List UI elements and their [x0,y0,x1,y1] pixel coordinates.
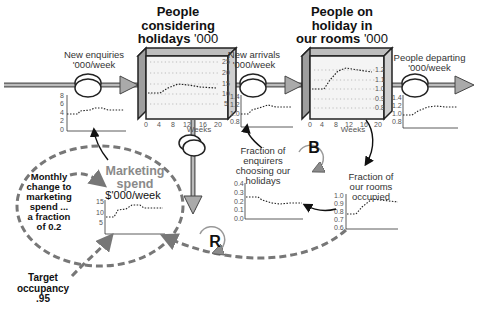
svg-text:5: 5 [224,100,228,107]
svg-text:1.0: 1.0 [375,85,385,92]
svg-text:20: 20 [222,69,230,76]
svg-text:0: 0 [308,121,312,128]
svg-text:6: 6 [60,100,64,107]
flow-label-new-enquiries: New enquiries '000/week [54,50,134,70]
chart-people-departing: 1.41.21.00.8 [392,94,458,128]
svg-text:10: 10 [222,90,230,97]
svg-text:0.8: 0.8 [230,118,240,125]
svg-text:0.8: 0.8 [375,104,385,111]
chart-fraction-enquirers: 0.40.30.20.10.0 [234,180,303,222]
svg-text:1.2: 1.2 [392,102,402,109]
flow-label-new-arrivals: New arrivals '000/week [216,50,292,70]
svg-text:0.8: 0.8 [392,118,402,125]
svg-text:0.0: 0.0 [234,215,244,222]
svg-text:1.0: 1.0 [392,110,402,117]
aux-unit-marketing-spend: $'000/week [92,190,174,202]
svg-text:4: 4 [320,121,324,128]
svg-text:4: 4 [60,109,64,116]
chart-marketing-spend: 15105 [96,198,165,234]
flow-label-people-departing: People departing '000/week [382,53,477,73]
svg-text:0.9: 0.9 [375,95,385,102]
svg-text:0.7: 0.7 [334,216,344,223]
chart-new-enquiries: 86420 [60,92,126,133]
svg-text:0.2: 0.2 [234,198,244,205]
svg-text:5: 5 [99,219,103,226]
loop-label-reinforcing: R [201,234,229,251]
loop-label-balancing: B [300,140,328,157]
svg-text:1.1: 1.1 [375,76,385,83]
svg-text:0: 0 [60,126,64,133]
svg-text:2: 2 [60,117,64,124]
svg-text:4: 4 [157,121,161,128]
aux-label-marketing-spend: Marketing spend [95,165,175,191]
valve-new-enquiries [75,74,101,97]
chart-new-arrivals: 1.41.21.00.8 [230,93,293,127]
aux-label-fraction-enquirers: Fraction of enquirers choosing our holid… [224,146,302,186]
aux-label-monthly-change: Monthly change to marketing spend ... a … [20,172,78,232]
svg-text:1.4: 1.4 [392,94,402,101]
svg-text:1.0: 1.0 [230,110,240,117]
aux-label-target-occupancy: Target occupancy .95 [10,273,76,305]
svg-text:1.4: 1.4 [230,93,240,100]
stock-title-considering: People considering holidays '000 [128,5,228,46]
svg-text:0.3: 0.3 [234,189,244,196]
axis-label-weeks-2: Weeks [328,126,378,134]
stock-title-on-holiday: People on holiday in our rooms '000 [292,5,392,46]
valve-people-departing [402,74,428,97]
svg-text:10: 10 [96,209,104,216]
valve-new-arrivals [240,74,266,97]
svg-text:1.2: 1.2 [230,101,240,108]
aux-label-fraction-rooms: Fraction of our rooms occupied [335,172,407,202]
svg-text:0.6: 0.6 [334,224,344,231]
svg-text:8: 8 [60,92,64,99]
axis-label-weeks-1: Weeks [174,126,224,134]
svg-text:0.1: 0.1 [234,206,244,213]
svg-text:15: 15 [222,80,230,87]
svg-text:0: 0 [144,121,148,128]
